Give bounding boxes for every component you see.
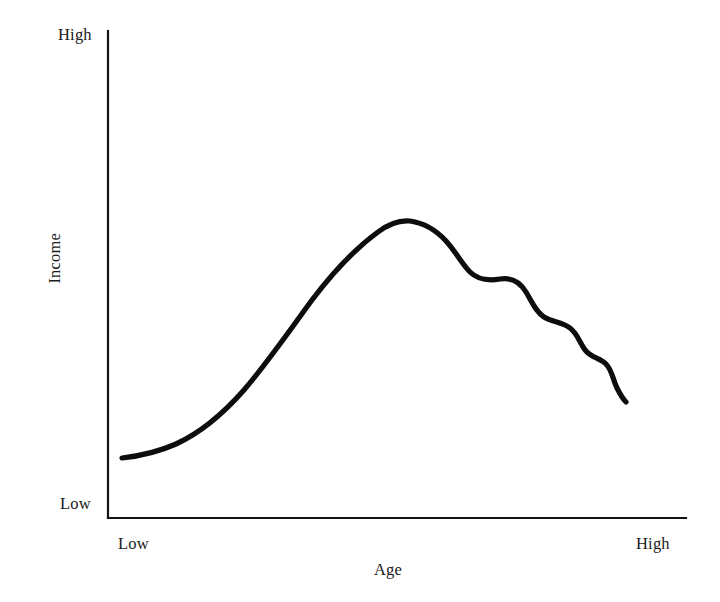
income-age-chart: High Low Income Low High Age (0, 0, 720, 602)
income-curve-path (122, 221, 626, 458)
x-axis-low-tick-label: Low (118, 536, 149, 553)
chart-canvas (0, 0, 720, 602)
y-axis-high-tick-label: High (58, 27, 92, 44)
y-axis-title: Income (47, 213, 64, 303)
y-axis-low-tick-label: Low (60, 496, 91, 513)
x-axis-high-tick-label: High (636, 536, 670, 553)
x-axis-title: Age (374, 562, 402, 579)
